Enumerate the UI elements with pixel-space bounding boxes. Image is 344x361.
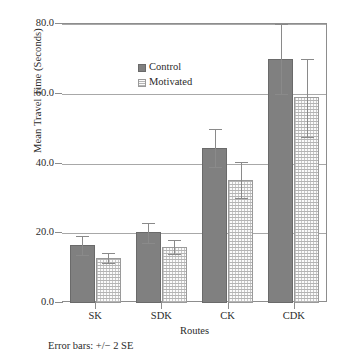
error-bar-cap-upper <box>275 24 288 25</box>
error-bar-footnote: Error bars: +/− 2 SE <box>48 340 133 351</box>
error-bar-cap-upper <box>102 253 115 254</box>
error-bar-cap-lower <box>76 255 89 256</box>
error-bar-line <box>108 253 109 263</box>
x-tick-label-sdk: SDK <box>131 310 191 321</box>
error-bar-line <box>82 236 83 255</box>
legend-swatch-control-icon <box>138 64 146 72</box>
error-bar-line <box>241 162 242 198</box>
x-tick-label-ck: CK <box>198 310 258 321</box>
error-bar-cap-upper <box>76 236 89 237</box>
x-tick-mark <box>161 302 162 309</box>
x-tick-mark <box>294 302 295 309</box>
bar-ck-control <box>202 148 227 303</box>
y-tick-label: 80.0 <box>10 18 54 29</box>
error-bar-cap-upper <box>168 240 181 241</box>
error-bar-cap-lower <box>102 263 115 264</box>
legend-swatch-motivated-icon <box>138 79 146 87</box>
error-bar-cap-lower <box>235 198 248 199</box>
legend-label-motivated: Motivated <box>149 77 192 88</box>
bar-sdk-motivated <box>162 247 187 303</box>
error-bar-cap-upper <box>209 129 222 130</box>
error-bar-line <box>281 24 282 94</box>
bar-cdk-control <box>268 59 293 303</box>
error-bar-line <box>174 240 175 255</box>
error-bar-line <box>148 223 149 243</box>
x-tick-mark <box>228 302 229 309</box>
error-bar-cap-upper <box>235 162 248 163</box>
error-bar-cap-lower <box>168 254 181 255</box>
legend-item-motivated: Motivated <box>138 76 192 89</box>
x-tick-label-cdk: CDK <box>264 310 324 321</box>
y-tick-label: 20.0 <box>10 227 54 238</box>
error-bar-cap-lower <box>209 167 222 168</box>
error-bar-cap-lower <box>301 137 314 138</box>
error-bar-cap-lower <box>275 94 288 95</box>
x-tick-label-sk: SK <box>65 310 125 321</box>
error-bar-line <box>215 129 216 167</box>
bar-sk-motivated <box>96 258 121 303</box>
y-tick-mark <box>55 302 63 303</box>
error-bar-cap-upper <box>142 223 155 224</box>
legend-item-control: Control <box>138 61 192 74</box>
y-tick-label: 40.0 <box>10 158 54 169</box>
chart-legend: Control Motivated <box>138 61 192 91</box>
error-bar-line <box>307 59 308 137</box>
plot-area: Control Motivated <box>62 23 327 302</box>
error-bar-cap-lower <box>142 243 155 244</box>
bar-chart-figure: Mean Travel Time (Seconds) 0.020.040.060… <box>0 0 344 361</box>
x-tick-mark <box>95 302 96 309</box>
x-axis-title: Routes <box>62 325 327 336</box>
y-tick-label: 0.0 <box>10 297 54 308</box>
legend-label-control: Control <box>149 62 181 73</box>
error-bar-cap-upper <box>301 59 314 60</box>
y-tick-label: 60.0 <box>10 88 54 99</box>
